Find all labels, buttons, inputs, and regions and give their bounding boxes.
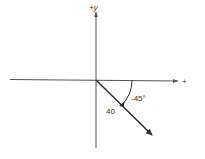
angle-label: -45° <box>131 94 146 103</box>
y-axis-label: +y <box>89 3 99 12</box>
magnitude-label: 40 <box>106 107 115 116</box>
force-vector <box>96 80 152 135</box>
x-axis-label: + <box>182 77 187 86</box>
vector-diagram: +y + -45° 40 <box>0 0 205 159</box>
x-axis <box>10 80 178 82</box>
